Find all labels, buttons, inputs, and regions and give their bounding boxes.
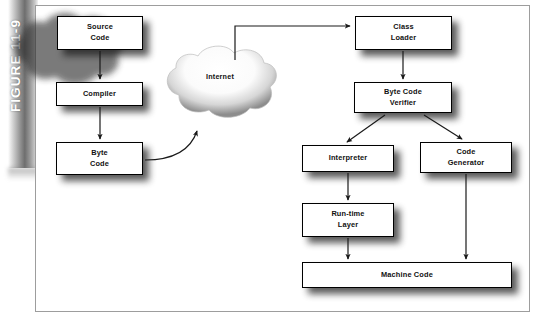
node-byte-code-verifier-line-2: Verifier [384, 98, 422, 109]
node-source-code-line-1: Source [87, 22, 113, 33]
edge-verifier-to-interpreter [347, 115, 385, 142]
node-machine-code-line-1: Machine Code [381, 270, 433, 281]
node-run-time-layer-line-1: Run-time [331, 209, 364, 220]
node-machine-code: Machine Code [302, 262, 512, 288]
node-byte-code-line-2: Code [90, 159, 109, 170]
node-compiler: Compiler [56, 82, 143, 106]
internet-cloud-label: Internet [160, 72, 280, 81]
diagram-canvas: Internet Source Code Compiler Byte Code [0, 0, 537, 323]
node-byte-code-verifier: Byte Code Verifier [354, 82, 452, 113]
node-code-generator: Code Generator [420, 142, 512, 173]
node-code-generator-line-1: Code [448, 147, 485, 158]
node-source-code-line-2: Code [87, 33, 113, 44]
node-run-time-layer-line-2: Layer [331, 220, 364, 231]
node-code-generator-line-2: Generator [448, 158, 485, 169]
node-class-loader-line-1: Class [391, 22, 417, 33]
node-byte-code: Byte Code [56, 142, 143, 175]
edge-byte-code-to-internet [145, 131, 197, 160]
node-class-loader: Class Loader [355, 16, 452, 50]
node-byte-code-verifier-line-1: Byte Code [384, 87, 422, 98]
node-interpreter-line-1: Interpreter [329, 153, 368, 164]
node-class-loader-line-2: Loader [391, 33, 417, 44]
node-source-code: Source Code [57, 16, 143, 50]
node-byte-code-line-1: Byte [90, 148, 109, 159]
internet-cloud: Internet [160, 42, 280, 124]
node-interpreter: Interpreter [302, 145, 394, 172]
node-compiler-line-1: Compiler [83, 89, 116, 100]
figure-page: FIGURE 11-9 [0, 0, 537, 323]
node-run-time-layer: Run-time Layer [302, 203, 394, 237]
